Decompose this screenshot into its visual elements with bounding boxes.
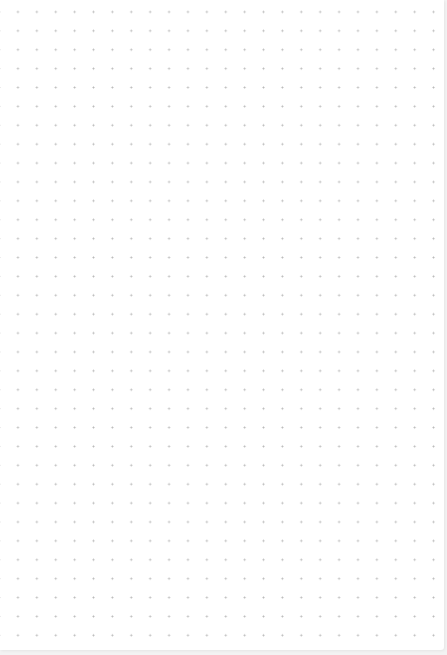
dot-grid-canvas[interactable]: [0, 0, 444, 650]
